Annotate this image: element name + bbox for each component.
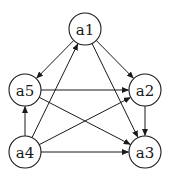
node-label: a5 bbox=[16, 82, 35, 100]
node-a2: a2 bbox=[129, 74, 161, 106]
edge-a1-to-a5 bbox=[37, 40, 74, 78]
node-label: a3 bbox=[136, 144, 155, 162]
node-label: a1 bbox=[76, 21, 95, 39]
edge-a1-to-a2 bbox=[96, 40, 133, 78]
directed-graph: a1a2a3a4a5 bbox=[0, 0, 171, 178]
node-a4: a4 bbox=[9, 136, 41, 168]
node-a1: a1 bbox=[69, 13, 101, 45]
node-label: a4 bbox=[16, 144, 35, 162]
node-a3: a3 bbox=[129, 136, 161, 168]
node-a5: a5 bbox=[9, 74, 41, 106]
edges bbox=[25, 40, 145, 152]
node-label: a2 bbox=[136, 82, 155, 100]
